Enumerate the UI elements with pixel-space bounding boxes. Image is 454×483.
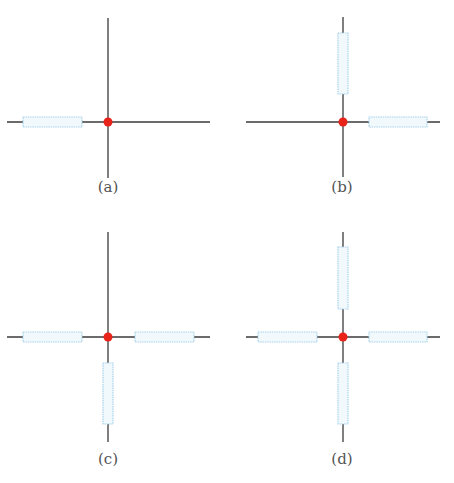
panel-label: (b)	[331, 178, 352, 196]
resistor-right	[369, 117, 427, 127]
panel-label: (a)	[98, 178, 119, 196]
panel-label: (c)	[98, 450, 118, 468]
panel-b: (b)	[246, 17, 440, 196]
junction-node	[104, 333, 113, 342]
resistor-top	[338, 33, 348, 94]
resistor-right	[135, 332, 194, 342]
resistor-left	[23, 117, 82, 127]
panel-c: (c)	[7, 232, 210, 468]
resistor-bottom	[103, 363, 113, 424]
panel-label: (d)	[331, 450, 352, 468]
resistor-right	[369, 332, 427, 342]
panel-a: (a)	[7, 18, 210, 196]
panel-d: (d)	[246, 232, 440, 468]
diagram-canvas: (a) (b) (c) (d)	[0, 0, 454, 483]
junction-node	[104, 118, 113, 127]
resistor-left	[23, 332, 82, 342]
resistor-top	[338, 247, 348, 309]
junction-node	[339, 333, 348, 342]
junction-node	[339, 118, 348, 127]
resistor-left	[258, 332, 317, 342]
resistor-bottom	[338, 363, 348, 424]
